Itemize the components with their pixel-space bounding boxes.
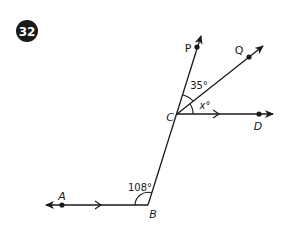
point-a [59, 202, 64, 207]
label-c: C [166, 111, 174, 124]
problem-number: 32 [19, 25, 36, 39]
point-p [194, 44, 199, 49]
point-q [246, 54, 251, 59]
label-d: D [254, 120, 262, 133]
angle-arc-qcd [190, 104, 193, 114]
geometry-diagram: 32 A B C D P Q 108° 35° x° [0, 0, 295, 228]
label-a: A [57, 190, 66, 203]
angle-label-qcd: x° [199, 100, 211, 111]
label-b: B [149, 208, 157, 221]
angle-arc-pcq [183, 95, 193, 101]
line-bp [148, 36, 201, 205]
problem-number-badge: 32 [16, 20, 38, 42]
label-q: Q [235, 44, 244, 57]
angle-label-pcq: 35° [190, 80, 208, 91]
point-d [256, 111, 261, 116]
angle-label-abc: 108° [128, 182, 152, 193]
ray-cd [177, 110, 273, 118]
label-p: P [185, 42, 192, 55]
